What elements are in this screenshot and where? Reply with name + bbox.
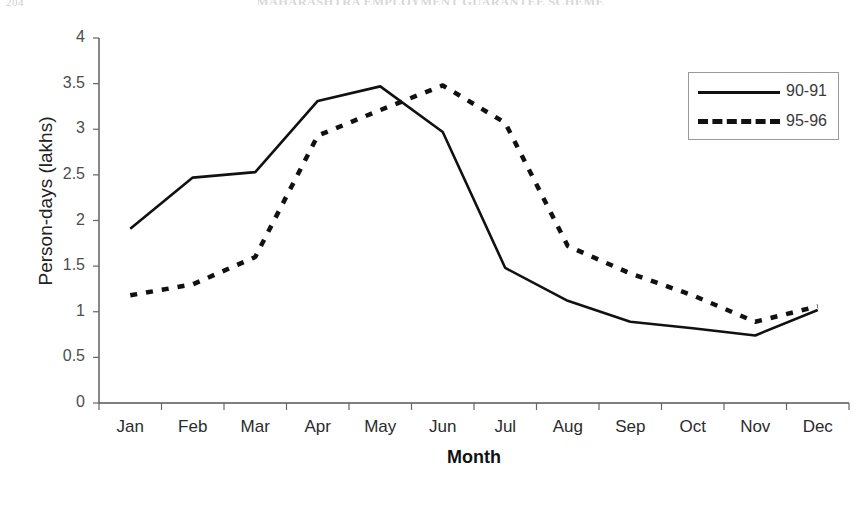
chart-legend: 90-91 95-96: [688, 72, 839, 140]
legend-item-0[interactable]: 90-91: [689, 79, 840, 105]
legend-item-1[interactable]: 95-96: [689, 109, 840, 135]
x-tick-label: Dec: [787, 417, 850, 437]
legend-label-1: 95-96: [786, 112, 827, 130]
y-axis-ticks: [93, 38, 99, 403]
x-tick-label: May: [349, 417, 412, 437]
x-tick-label: Jun: [412, 417, 475, 437]
x-tick-label: Mar: [224, 417, 287, 437]
y-tick-label: 4: [51, 28, 85, 46]
y-tick-label: 0: [51, 393, 85, 411]
x-tick-label: Sep: [599, 417, 662, 437]
legend-label-0: 90-91: [786, 82, 827, 100]
chart-figure: 204 MAHARASHTRA EMPLOYMENT GUARANTEE SCH…: [0, 0, 861, 506]
x-tick-label: Feb: [162, 417, 225, 437]
x-tick-label: Apr: [287, 417, 350, 437]
y-tick-label: 0.5: [51, 347, 85, 365]
x-axis-ticks: [99, 403, 849, 410]
x-tick-label: Jan: [99, 417, 162, 437]
x-axis-title: Month: [99, 447, 849, 468]
x-tick-label: Nov: [724, 417, 787, 437]
legend-swatch-dashed-icon: [698, 119, 780, 124]
legend-swatch-solid-icon: [698, 91, 780, 94]
x-tick-label: Oct: [662, 417, 725, 437]
y-axis-title: Person-days (lakhs): [35, 71, 57, 331]
x-tick-label: Jul: [474, 417, 537, 437]
x-tick-label: Aug: [537, 417, 600, 437]
